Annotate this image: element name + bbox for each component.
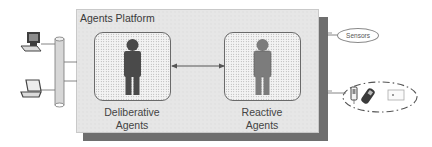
label-line: Reactive — [212, 106, 312, 119]
desktop-computer-icon — [19, 30, 45, 54]
sensors-node: Sensors — [337, 28, 379, 43]
deliberative-agents-label: Deliberative Agents — [82, 106, 182, 132]
devices-group — [341, 79, 421, 115]
platform-title: Agents Platform — [80, 12, 155, 24]
network-bus-cylinder-icon — [54, 36, 66, 110]
card-reader-icon — [388, 90, 404, 100]
mobile-phone-icon — [360, 87, 376, 105]
label-line: Agents — [212, 119, 312, 132]
person-icon — [224, 32, 301, 101]
reactive-agent-tile — [224, 32, 301, 101]
label-line: Deliberative — [82, 106, 182, 119]
bidirectional-arrow-icon — [168, 60, 228, 72]
reactive-agents-label: Reactive Agents — [212, 106, 312, 132]
pda-icon — [351, 87, 357, 104]
left-network — [0, 0, 80, 147]
deliberative-agent-tile — [94, 32, 171, 101]
laptop-icon — [19, 78, 45, 100]
label-line: Agents — [82, 119, 182, 132]
person-icon — [94, 32, 171, 101]
